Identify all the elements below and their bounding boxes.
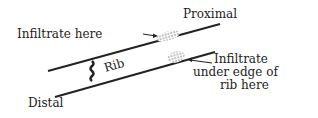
infiltrate-lower-shading xyxy=(166,49,186,65)
label-infiltrate-under-1: Infiltrate xyxy=(214,52,268,66)
rib-infiltrate-diagram: Proximal Infiltrate here Rib Distal Infi… xyxy=(0,0,318,118)
arrow-infiltrate-under xyxy=(190,60,212,63)
label-infiltrate-under-2: under edge of xyxy=(193,65,279,79)
label-proximal: Proximal xyxy=(183,7,237,21)
rib-joint-squiggle xyxy=(91,61,94,81)
label-distal: Distal xyxy=(28,96,64,110)
label-infiltrate-here: Infiltrate here xyxy=(17,27,102,41)
label-infiltrate-under-3: rib here xyxy=(220,78,269,92)
label-rib: Rib xyxy=(102,56,126,75)
